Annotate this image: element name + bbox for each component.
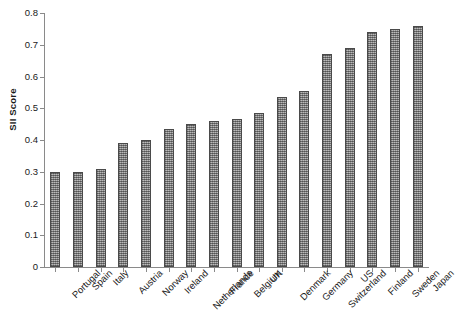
y-tick-mark [40, 235, 44, 236]
y-tick-label: 0.7 [25, 40, 38, 50]
bar [186, 124, 196, 267]
y-tick-mark [40, 172, 44, 173]
bar [50, 172, 60, 267]
bar [73, 172, 83, 267]
y-tick-mark [40, 77, 44, 78]
y-tick-mark [40, 140, 44, 141]
y-tick-label: 0.1 [25, 231, 38, 241]
y-tick-mark [40, 45, 44, 46]
y-tick-mark [40, 108, 44, 109]
bar [299, 91, 309, 267]
y-tick-label: 0.8 [25, 8, 38, 18]
plot-area: 00.10.20.30.40.50.60.70.8 [44, 13, 429, 267]
bar [390, 29, 400, 267]
bar [254, 113, 264, 267]
y-axis-line [44, 13, 45, 267]
y-tick-label: 0 [33, 262, 38, 272]
bar [96, 169, 106, 267]
bar [164, 129, 174, 267]
bar [413, 26, 423, 267]
bar [209, 121, 219, 267]
y-tick-mark [40, 204, 44, 205]
bar [232, 119, 242, 267]
y-tick-label: 0.3 [25, 167, 38, 177]
bar [277, 97, 287, 267]
y-tick-label: 0.2 [25, 199, 38, 209]
x-axis-labels: PortugalSpainItalyAustriaNorwayIrelandNe… [44, 268, 429, 336]
y-axis-title: SII Score [7, 74, 18, 146]
bar [322, 54, 332, 267]
bar [141, 140, 151, 267]
bar [118, 143, 128, 267]
bar [367, 32, 377, 267]
x-tick-label: Italy [111, 268, 130, 287]
y-tick-label: 0.5 [25, 104, 38, 114]
y-tick-label: 0.4 [25, 135, 38, 145]
y-tick-mark [40, 13, 44, 14]
bar [345, 48, 355, 267]
y-tick-label: 0.6 [25, 72, 38, 82]
